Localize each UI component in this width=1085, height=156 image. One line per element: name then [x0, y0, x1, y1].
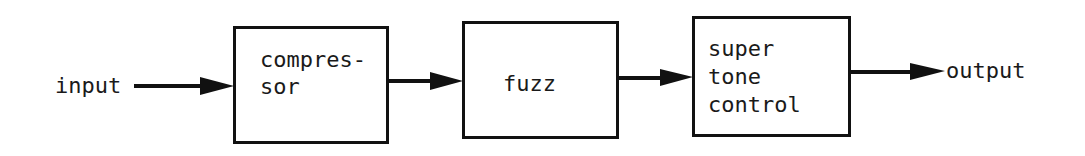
super-tone-control-block: super tone control — [692, 16, 851, 137]
input-label: input — [55, 73, 121, 98]
fuzz-label: fuzz — [503, 71, 556, 96]
compressor-block: compres- sor — [233, 26, 389, 144]
tone-control-label-line-2: tone — [708, 64, 761, 89]
tone-control-label-line-3: control — [708, 92, 801, 117]
signal-chain-diagram: input compres- sor fuzz super tone contr… — [0, 0, 1085, 156]
arrow-tone-control-to-output — [850, 63, 945, 80]
arrow-input-to-compressor — [134, 77, 234, 95]
compressor-label-line-2: sor — [260, 74, 300, 99]
compressor-label-line-1: compres- — [260, 47, 366, 72]
arrow-compressor-to-fuzz — [388, 72, 463, 90]
output-label: output — [946, 58, 1025, 83]
fuzz-block: fuzz — [462, 21, 619, 139]
tone-control-label-line-1: super — [708, 36, 774, 61]
arrow-fuzz-to-tone-control — [618, 69, 693, 86]
